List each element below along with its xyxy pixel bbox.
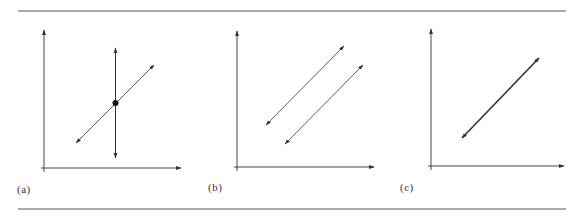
coincident-line [462,58,539,138]
panel-label-a: (a) [17,183,31,195]
figure-canvas [0,0,579,216]
panel-label-c: (c) [400,181,414,193]
panel-a [41,30,181,172]
intersection-point [113,100,119,106]
parallel-line-1 [266,46,344,125]
panel-b [234,31,374,171]
panel-c [428,29,564,170]
panel-label-b: (b) [208,181,222,193]
parallel-line-2 [285,65,363,144]
